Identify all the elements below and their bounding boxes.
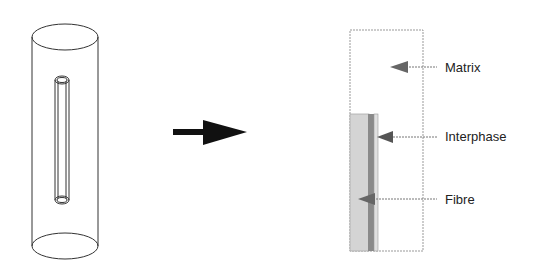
cross-section-figure (350, 30, 437, 251)
transition-arrow-icon (173, 120, 247, 145)
interphase-region (368, 114, 374, 251)
matrix-pointer-icon (390, 61, 437, 73)
interphase-pointer-icon (377, 131, 437, 143)
fibre-label: Fibre (445, 193, 475, 207)
fibre-region (350, 114, 369, 251)
embedded-fibre (55, 76, 69, 204)
matrix-label: Matrix (445, 61, 480, 75)
interphase-label: Interphase (445, 130, 506, 144)
cylinder-figure (32, 24, 98, 259)
